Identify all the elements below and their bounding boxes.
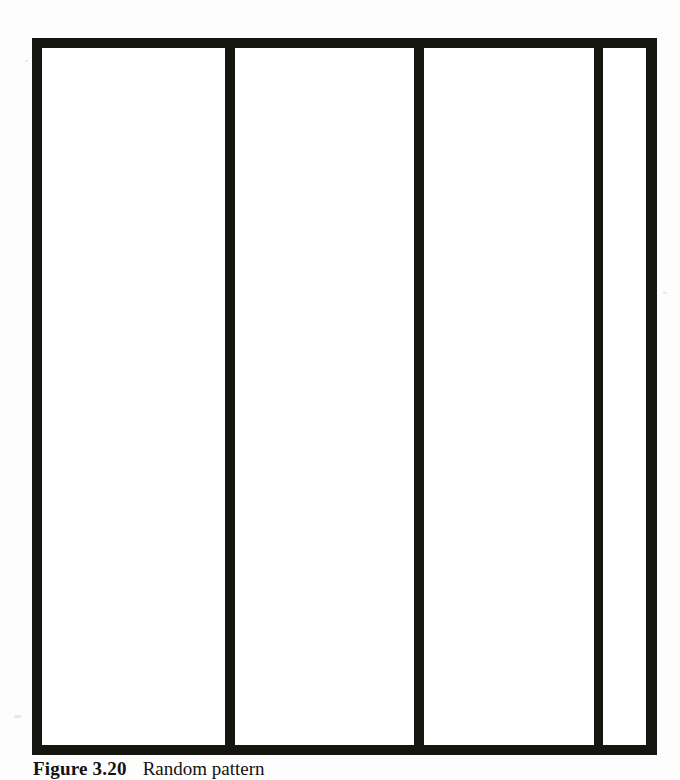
figure-panel-4	[603, 48, 646, 745]
panel-divider-2	[414, 48, 424, 745]
figure-caption-label: Figure 3.20	[33, 758, 127, 779]
figure-caption: Figure 3.20Random pattern	[33, 758, 653, 780]
figure-panel-2	[235, 48, 414, 745]
figure-frame	[32, 38, 657, 755]
figure-caption-text: Random pattern	[143, 758, 265, 779]
figure-panel-1	[42, 48, 225, 745]
figure-panel-3	[424, 48, 594, 745]
panel-divider-3	[594, 48, 603, 745]
panel-divider-1	[225, 48, 235, 745]
